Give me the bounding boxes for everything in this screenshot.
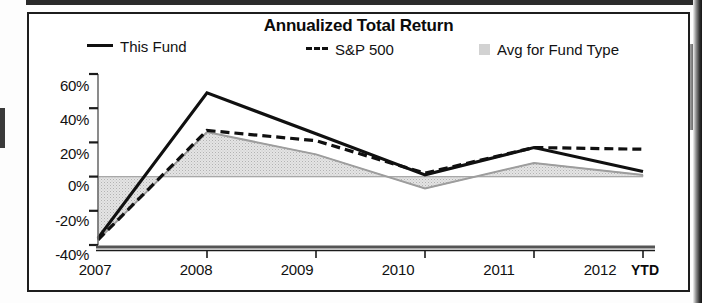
y-axis-tick-label: 20% xyxy=(31,145,89,162)
y-axis-tick-label: -20% xyxy=(31,212,89,229)
x-axis-tick-label: 2007 xyxy=(67,261,123,278)
y-axis-tick-label: 0% xyxy=(31,177,89,194)
chart-container: Annualized Total Return This Fund S&P 50… xyxy=(27,12,690,292)
plot-area xyxy=(29,14,692,294)
y-axis-tick-label: 40% xyxy=(31,111,89,128)
x-axis-tick-label: 2008 xyxy=(168,261,224,278)
series-line-avg-for-fund-type xyxy=(98,132,643,240)
x-axis-tick-label: 2009 xyxy=(269,261,325,278)
x-axis-tick-label: 2012 xyxy=(572,261,628,278)
series-area-avg-for-fund-type xyxy=(98,132,643,240)
x-axis-tick-label: 2010 xyxy=(370,261,426,278)
scan-artifact-left-edge xyxy=(0,108,5,148)
x-axis-ytd-label: YTD xyxy=(631,262,659,278)
scan-artifact-right-edge xyxy=(693,0,702,303)
scanned-page: Annualized Total Return This Fund S&P 50… xyxy=(0,0,702,303)
x-axis-tick-label: 2011 xyxy=(471,261,527,278)
chart-plot-svg xyxy=(29,14,692,294)
scan-artifact-top-edge xyxy=(26,0,702,5)
series-line-sp500 xyxy=(98,130,643,239)
y-axis-tick-label: 60% xyxy=(31,77,89,94)
